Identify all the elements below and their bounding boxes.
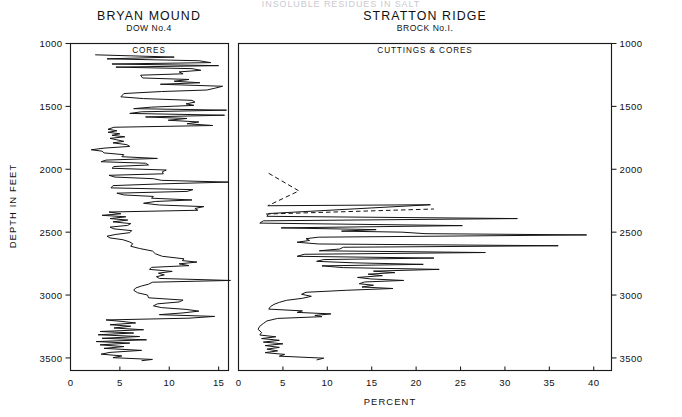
right-panel-title: STRATTON RIDGE (363, 9, 487, 23)
y-tick-label-left: 2000 (40, 164, 63, 175)
left-panel-material: CORES (132, 46, 166, 55)
x-tick-label: 5 (117, 377, 123, 388)
y-tick-label-left: 2500 (40, 227, 63, 238)
right-panel-subtitle: BROCK No.I. (397, 23, 454, 33)
y-tick-label-left: 3500 (40, 353, 63, 364)
y-axis-label: DEPTH IN FEET (7, 164, 18, 249)
x-tick-label: 10 (164, 377, 175, 388)
y-tick-label-right: 2500 (620, 227, 643, 238)
y-tick-label-right: 1000 (620, 38, 643, 49)
x-tick-label: 5 (280, 377, 286, 388)
x-tick-label: 15 (213, 377, 224, 388)
x-tick-label: 10 (322, 377, 333, 388)
figure-stage: INSOLUBLE RESIDUES IN SALT BRYAN MOUND D… (0, 0, 682, 417)
x-tick-label: 30 (499, 377, 510, 388)
x-tick-label: 25 (455, 377, 466, 388)
x-tick-label: 0 (68, 377, 74, 388)
figure-top-title: INSOLUBLE RESIDUES IN SALT (262, 0, 420, 9)
left-panel-title: BRYAN MOUND (97, 9, 201, 23)
x-tick-label: 0 (236, 377, 242, 388)
x-axis-label: PERCENT (364, 396, 417, 407)
y-tick-label-left: 3000 (40, 290, 63, 301)
y-tick-label-right: 3500 (620, 353, 643, 364)
insoluble-residues-figure: INSOLUBLE RESIDUES IN SALT BRYAN MOUND D… (0, 0, 682, 417)
y-tick-label-left: 1000 (40, 38, 63, 49)
y-tick-label-right: 1500 (620, 101, 643, 112)
left-panel-subtitle: DOW No.4 (126, 23, 172, 33)
x-tick-label: 15 (366, 377, 377, 388)
x-tick-label: 20 (410, 377, 421, 388)
y-tick-label-left: 1500 (40, 101, 63, 112)
x-tick-label: 40 (588, 377, 599, 388)
y-tick-label-right: 3000 (620, 290, 643, 301)
right-panel-material: CUTTINGS & CORES (377, 46, 472, 55)
y-tick-label-right: 2000 (620, 164, 643, 175)
x-tick-label: 35 (544, 377, 555, 388)
